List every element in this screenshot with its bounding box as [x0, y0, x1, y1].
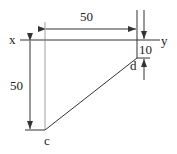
- left-dimension-label: 50: [10, 78, 23, 93]
- point-d-label: d: [130, 58, 137, 73]
- offset-dimension-label: 10: [139, 42, 152, 57]
- projection-diagram: x y 50 50 10 c d: [0, 0, 177, 154]
- y-axis-label: y: [161, 33, 168, 48]
- top-dimension-label: 50: [80, 9, 93, 24]
- line-cd: [45, 58, 137, 130]
- x-axis-label: x: [9, 32, 16, 47]
- point-c-label: c: [44, 133, 50, 148]
